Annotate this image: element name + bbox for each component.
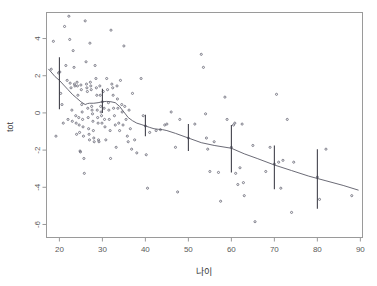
- x-tick-label: 90: [356, 245, 365, 254]
- x-tick-label: 80: [313, 245, 322, 254]
- y-tick-label: 0: [33, 110, 42, 115]
- x-axis-title: 나이: [196, 267, 212, 277]
- y-tick-label: -4: [33, 183, 42, 191]
- x-tick-label: 40: [141, 245, 150, 254]
- x-tick-label: 30: [98, 245, 107, 254]
- y-tick-label: -6: [33, 220, 42, 228]
- scatter-plot: 2030405060708090 420-2-4-6 나이 tot: [0, 0, 377, 286]
- y-tick-label: 2: [33, 73, 42, 78]
- x-tick-label: 70: [270, 245, 279, 254]
- x-tick-label: 50: [184, 245, 193, 254]
- y-tick-label: -2: [33, 146, 42, 154]
- x-tick-label: 60: [227, 245, 236, 254]
- y-axis-title: tot: [5, 122, 15, 133]
- y-tick-label: 4: [33, 36, 42, 41]
- chart-container: 2030405060708090 420-2-4-6 나이 tot: [0, 0, 377, 286]
- x-tick-label: 20: [55, 245, 64, 254]
